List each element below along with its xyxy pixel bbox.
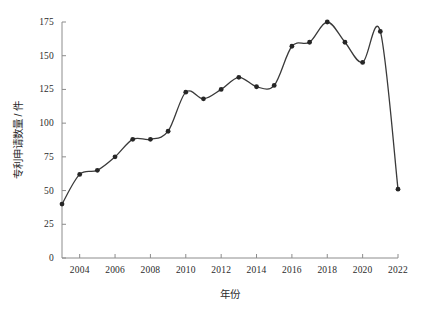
data-point-marker [307, 40, 312, 45]
data-point-marker [325, 20, 330, 25]
data-point-marker [77, 172, 82, 177]
y-axis-tick-label: 175 [0, 17, 54, 27]
data-point-marker [396, 187, 401, 192]
data-point-marker [148, 137, 153, 142]
x-axis-tick-label: 2012 [211, 265, 231, 275]
y-axis-tick-label: 75 [0, 152, 54, 162]
data-point-marker [378, 29, 383, 34]
y-axis-tick-label: 0 [0, 253, 54, 263]
x-axis-tick-label: 2022 [388, 265, 408, 275]
y-axis-title: 专利申请数量 / 件 [10, 101, 25, 180]
x-axis-tick-label: 2006 [105, 265, 125, 275]
data-point-marker [254, 84, 259, 89]
x-axis-tick-label: 2020 [353, 265, 373, 275]
data-point-marker [219, 87, 224, 92]
x-axis-tick-label: 2008 [140, 265, 160, 275]
x-axis-tick-label: 2010 [176, 265, 196, 275]
data-point-marker [343, 40, 348, 45]
data-point-marker [166, 129, 171, 134]
chart-axes [62, 22, 398, 258]
y-axis-tick-label: 50 [0, 186, 54, 196]
data-point-marker [95, 168, 100, 173]
chart-figure: 0255075100125150175 20042006200820102012… [0, 0, 428, 312]
series-line [62, 22, 398, 204]
x-axis-tick-label: 2018 [317, 265, 337, 275]
data-point-marker [201, 96, 206, 101]
data-point-marker [60, 202, 65, 207]
data-point-marker [360, 60, 365, 65]
data-point-marker [272, 83, 277, 88]
y-axis-tick-label: 100 [0, 118, 54, 128]
x-axis-tick-label: 2004 [70, 265, 90, 275]
x-axis-tick-label: 2016 [282, 265, 302, 275]
data-point-marker [183, 90, 188, 95]
x-axis-tick-label: 2014 [247, 265, 267, 275]
data-point-marker [236, 75, 241, 80]
x-axis-title: 年份 [220, 286, 240, 301]
y-axis-tick-label: 150 [0, 51, 54, 61]
data-point-marker [130, 137, 135, 142]
data-point-marker [289, 44, 294, 49]
y-axis-tick-label: 25 [0, 219, 54, 229]
data-point-marker [113, 154, 118, 159]
chart-series [60, 20, 401, 207]
y-axis-tick-label: 125 [0, 84, 54, 94]
